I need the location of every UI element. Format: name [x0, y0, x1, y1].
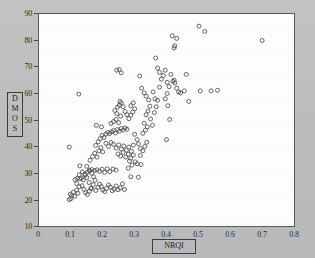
- scatter-point: [121, 150, 125, 154]
- y-tick-label-70: 70: [10, 62, 32, 71]
- scatter-point: [135, 138, 139, 142]
- scatter-point: [147, 98, 151, 102]
- scatter-point: [94, 143, 98, 147]
- scatter-point: [67, 145, 71, 149]
- y-tick-label-90: 90: [10, 9, 32, 18]
- scatter-point: [165, 92, 169, 96]
- scatter-point: [93, 151, 97, 155]
- y-tick-label-80: 80: [10, 36, 32, 45]
- scatter-point: [121, 105, 125, 109]
- scatter-point: [126, 152, 130, 156]
- scatter-point: [121, 182, 125, 186]
- scatter-point: [78, 164, 82, 168]
- scatter-point: [99, 146, 103, 150]
- scatter-point: [88, 158, 92, 162]
- scatter-point: [166, 104, 170, 108]
- scatter-point: [163, 68, 167, 72]
- y-axis-label-letter-s: S: [8, 124, 22, 134]
- y-axis-label-letter-d: D: [8, 94, 22, 104]
- scatter-point: [157, 85, 161, 89]
- scatter-point: [163, 97, 167, 101]
- scatter-point: [85, 164, 89, 168]
- scatter-point: [87, 181, 91, 185]
- scatter-point: [133, 132, 137, 136]
- scatter-point: [157, 70, 161, 74]
- scatter-point: [175, 36, 179, 40]
- x-tick-label-0p8: 0.8: [283, 230, 305, 239]
- x-tick-label-0: 0: [27, 230, 49, 239]
- scatter-point: [136, 175, 140, 179]
- scatter-point: [150, 123, 154, 127]
- scatter-point: [127, 145, 131, 149]
- scatter-point: [103, 170, 107, 174]
- scatter-point: [142, 121, 146, 125]
- scatter-point: [138, 74, 142, 78]
- scatter-point: [168, 117, 172, 121]
- x-tick-label-0p4: 0.4: [155, 230, 177, 239]
- scatter-point: [203, 29, 207, 33]
- y-axis-label-letter-m: M: [8, 104, 22, 114]
- scatter-point: [125, 113, 129, 117]
- y-tick-label-40: 40: [10, 142, 32, 151]
- x-tick-label-0p6: 0.6: [219, 230, 241, 239]
- scatter-point: [94, 123, 98, 127]
- scatter-point: [101, 150, 105, 154]
- scatter-point: [106, 145, 110, 149]
- scatter-point: [142, 91, 146, 95]
- scatter-point: [216, 88, 220, 92]
- scatter-point: [143, 145, 147, 149]
- y-axis-label: D M O S: [7, 92, 23, 137]
- scatter-point: [126, 166, 130, 170]
- scatter-point: [161, 73, 165, 77]
- scatter-point: [122, 144, 126, 148]
- scatter-point: [145, 140, 149, 144]
- scatter-point: [140, 86, 144, 90]
- y-tick-label-30: 30: [10, 169, 32, 178]
- scatter-point: [130, 163, 134, 167]
- x-tick-label-0p3: 0.3: [123, 230, 145, 239]
- scatter-plot: [39, 14, 294, 226]
- scatter-point: [122, 187, 126, 191]
- scatter-point: [131, 153, 135, 157]
- scatter-point: [184, 72, 188, 76]
- x-tick-label-0p7: 0.7: [251, 230, 273, 239]
- scatter-point: [129, 175, 133, 179]
- scatter-point: [169, 72, 173, 76]
- scatter-point: [148, 104, 152, 108]
- scatter-point: [136, 142, 140, 146]
- x-tick-label-0p1: 0.1: [59, 230, 81, 239]
- scatter-point: [91, 183, 95, 187]
- scatter-point: [129, 104, 133, 108]
- y-tick-label-20: 20: [10, 196, 32, 205]
- scatter-point: [209, 89, 213, 93]
- x-tick-label-0p5: 0.5: [187, 230, 209, 239]
- scatter-point: [260, 39, 264, 43]
- scatter-point: [75, 182, 79, 186]
- scatter-point: [187, 99, 191, 103]
- scatter-point: [165, 80, 169, 84]
- scatter-point: [131, 143, 135, 147]
- scatter-point: [197, 24, 201, 28]
- figure-canvas: 90 80 70 60 50 40 30 20 10 0 0.1 0.2 0.3…: [0, 0, 315, 258]
- plot-area: [38, 13, 295, 227]
- scatter-point: [138, 154, 142, 158]
- scatter-point: [198, 89, 202, 93]
- scatter-point: [146, 109, 150, 113]
- x-axis-label: NRQI: [152, 239, 196, 254]
- scatter-point: [154, 56, 158, 60]
- scatter-point: [149, 117, 153, 121]
- scatter-point: [117, 121, 121, 125]
- scatter-point: [95, 155, 99, 159]
- scatter-point: [182, 89, 186, 93]
- scatter-point: [167, 85, 171, 89]
- scatter-point: [133, 107, 137, 111]
- scatter-point: [170, 34, 174, 38]
- x-tick-label-0p2: 0.2: [91, 230, 113, 239]
- scatter-point: [156, 66, 160, 70]
- scatter-point: [154, 105, 158, 109]
- scatter-point: [119, 114, 123, 118]
- scatter-point: [139, 163, 143, 167]
- scatter-point: [165, 138, 169, 142]
- scatter-point: [119, 71, 123, 75]
- scatter-point: [145, 125, 149, 129]
